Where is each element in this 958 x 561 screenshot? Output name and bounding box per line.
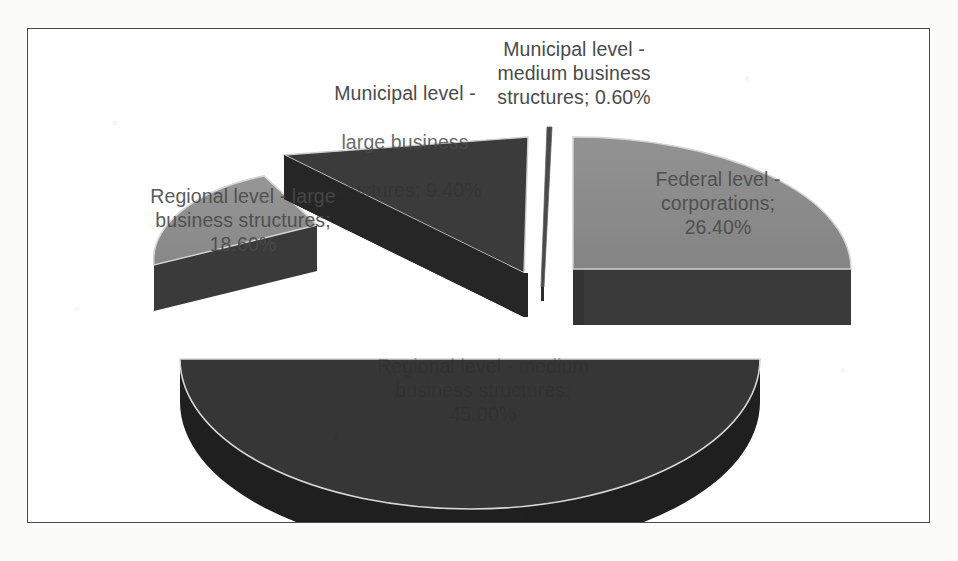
slice-label-regional-medium: Regional level - medium business structu… [358, 354, 608, 427]
pie-slice-municipal-medium[interactable] [541, 127, 552, 301]
slice-label-regional-large: Regional level - large business structur… [138, 184, 348, 257]
slice-label-municipal-large-line2: large business [290, 130, 520, 154]
slice-label-municipal-medium: Municipal level - medium business struct… [476, 37, 672, 110]
slice-label-federal: Federal level - corporations; 26.40% [620, 167, 816, 240]
chart-frame: Municipal level - large business structu… [27, 28, 930, 523]
pie-chart-plot-area: Municipal level - large business structu… [28, 29, 929, 522]
